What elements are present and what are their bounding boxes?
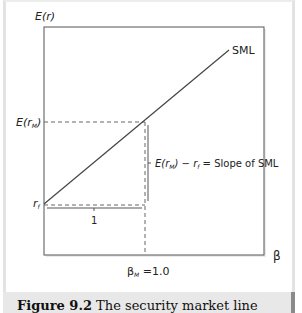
- figure-number: Figure 9.2: [17, 298, 92, 313]
- x-axis-label: β: [273, 249, 281, 263]
- beta-m-tick-label: βM =1.0: [127, 265, 169, 278]
- erm-tick-label: E(rM): [16, 116, 41, 129]
- y-axis-label: E(r): [35, 10, 55, 23]
- figure-caption: Figure 9.2 The security market line: [3, 292, 295, 313]
- slope-annotation: E(rM) − rf = Slope of SML: [155, 158, 279, 170]
- sml-label: SML: [232, 44, 255, 57]
- plot-area: [44, 27, 264, 255]
- sml-chart: E(r) SML E(rM) rf 1 E(rM) − rf = Slope o…: [0, 0, 302, 313]
- figure-title: The security market line: [92, 298, 258, 313]
- rf-tick-label: rf: [33, 197, 41, 210]
- run-label: 1: [91, 215, 97, 226]
